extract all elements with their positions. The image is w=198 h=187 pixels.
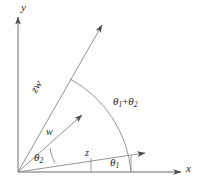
angle-theta1-label: θ1 bbox=[110, 157, 119, 169]
angle-theta2-label: θ2 bbox=[34, 152, 43, 164]
theta-sum-subscript-b: 2 bbox=[134, 100, 138, 109]
figure-canvas bbox=[0, 0, 198, 187]
y-axis-label: y bbox=[21, 2, 26, 13]
arc-theta-sum bbox=[70, 79, 131, 172]
complex-multiplication-figure: y x zw w z θ1 θ2 θ1+θ2 bbox=[0, 0, 198, 187]
x-axis-label: x bbox=[186, 163, 191, 174]
vector-w-label: w bbox=[46, 127, 53, 137]
vector-z-label: z bbox=[85, 148, 89, 158]
theta2-subscript: 2 bbox=[39, 156, 43, 165]
arc-theta2 bbox=[50, 148, 55, 163]
theta1-subscript: 1 bbox=[115, 161, 119, 170]
vector-zw-line bbox=[18, 25, 102, 172]
angle-theta-sum-label: θ1+θ2 bbox=[113, 96, 138, 108]
